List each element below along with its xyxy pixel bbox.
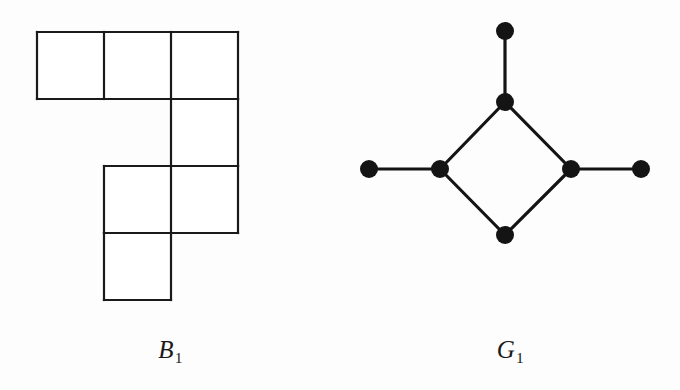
figure-root: B1 G1 bbox=[0, 0, 680, 390]
graph-edge bbox=[505, 169, 571, 235]
polyomino-caption: B1 bbox=[0, 336, 340, 364]
graph-node bbox=[496, 22, 514, 40]
graph-caption-subscript: 1 bbox=[516, 349, 524, 366]
graph-edge bbox=[505, 102, 571, 169]
polyomino-diagram bbox=[0, 0, 340, 340]
polyomino-cell bbox=[104, 32, 171, 99]
graph-edge bbox=[440, 169, 505, 235]
graph-diagram bbox=[340, 0, 680, 340]
graph-node bbox=[562, 160, 580, 178]
polyomino-cell bbox=[37, 32, 104, 99]
polyomino-cell bbox=[171, 166, 238, 233]
polyomino-cell bbox=[104, 166, 171, 233]
polyomino-cell bbox=[171, 32, 238, 99]
polyomino-panel: B1 bbox=[0, 0, 340, 390]
polyomino-caption-letter: B bbox=[158, 336, 174, 363]
graph-node bbox=[632, 160, 650, 178]
graph-node bbox=[360, 160, 378, 178]
graph-caption: G1 bbox=[340, 336, 680, 364]
graph-edge bbox=[440, 102, 505, 169]
polyomino-caption-subscript: 1 bbox=[175, 349, 183, 366]
graph-node bbox=[496, 226, 514, 244]
graph-caption-letter: G bbox=[497, 336, 516, 363]
polyomino-cell bbox=[104, 233, 171, 300]
polyomino-cell bbox=[171, 99, 238, 166]
graph-node bbox=[431, 160, 449, 178]
graph-panel: G1 bbox=[340, 0, 680, 390]
graph-node bbox=[496, 93, 514, 111]
